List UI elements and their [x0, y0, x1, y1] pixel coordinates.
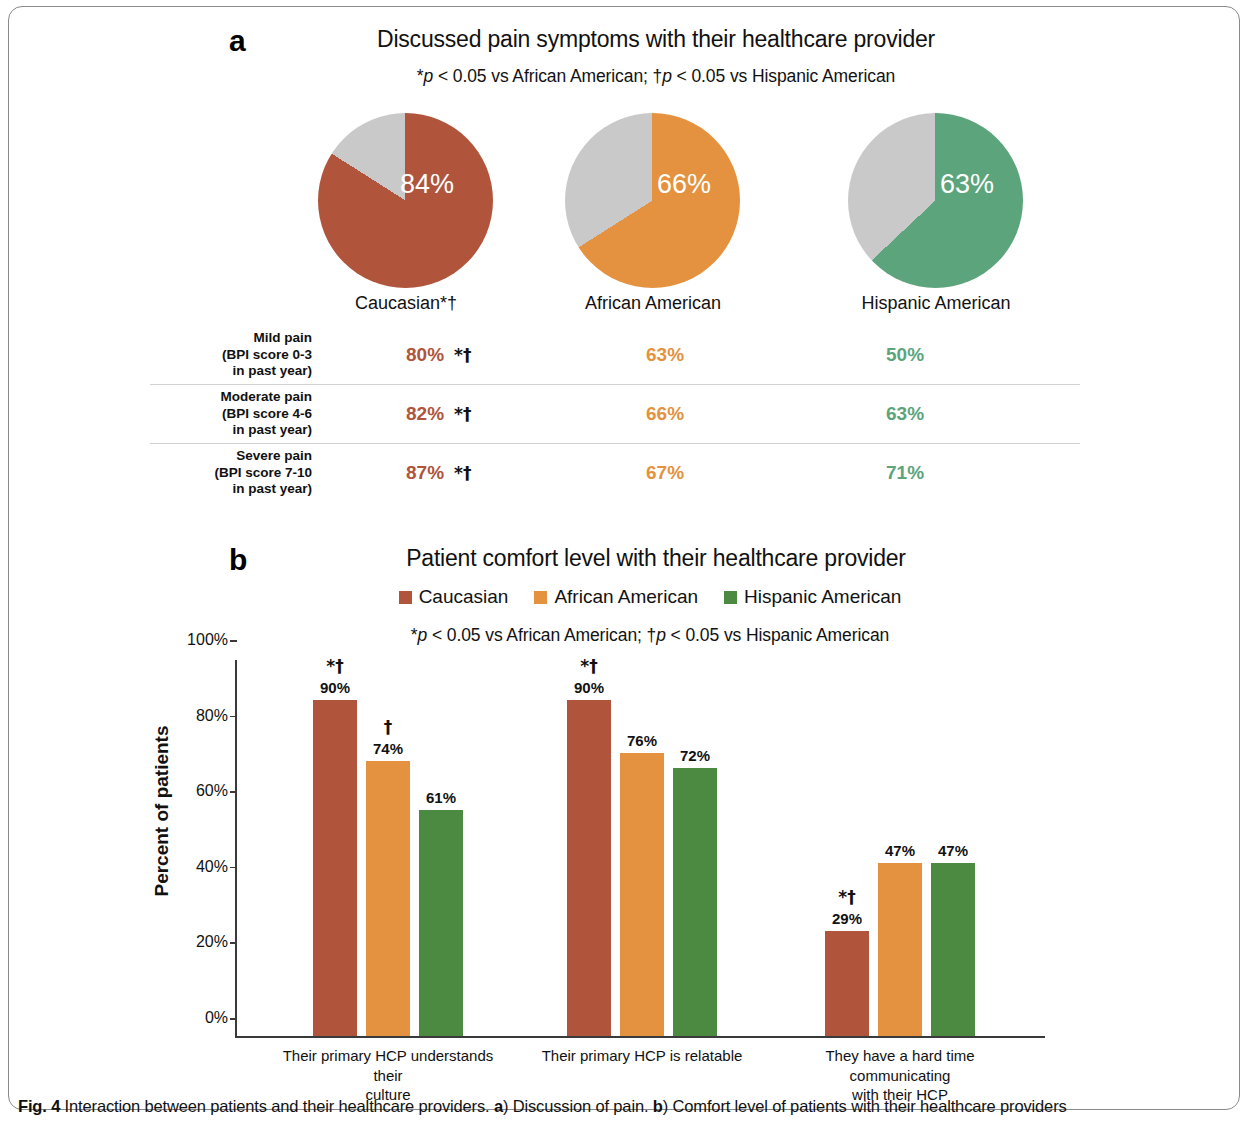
cell-significance: *†	[454, 463, 471, 483]
pie-value-label: 84%	[400, 169, 454, 200]
row-label-line2: (BPI score 7-10	[150, 465, 312, 481]
figure-4: a Discussed pain symptoms with their hea…	[0, 0, 1252, 1132]
bar-african-american: 47%	[878, 863, 922, 1036]
y-axis-tick: 20%	[196, 933, 237, 951]
cell-hispanic-american: 71%	[824, 462, 1064, 484]
x-axis-label: They have a hard time communicatingwith …	[781, 1046, 1019, 1105]
row-label-line3: in past year)	[150, 422, 312, 438]
row-label: Severe pain (BPI score 7-10 in past year…	[150, 448, 320, 497]
a-note-p2: p	[662, 66, 672, 86]
table-row: Mild pain (BPI score 0-3 in past year) 8…	[150, 326, 1080, 384]
bar-caucasian: 90%*†	[567, 700, 611, 1036]
bar-group: 29%*†47%47%They have a hard time communi…	[777, 660, 1047, 1036]
legend-swatch-icon	[534, 591, 547, 604]
row-label-line1: Severe pain	[150, 448, 312, 464]
pie-caption: African American	[533, 293, 773, 314]
x-axis-label: Their primary HCP is relatable	[523, 1046, 761, 1066]
legend-label: Caucasian	[419, 586, 509, 608]
legend-label: Hispanic American	[744, 586, 901, 608]
panel-b-title: Patient comfort level with their healthc…	[276, 545, 1036, 572]
caption-b-label: b	[653, 1097, 663, 1115]
row-label-line2: (BPI score 0-3	[150, 347, 312, 363]
legend-item-african-american: African American	[534, 586, 698, 608]
legend-item-caucasian: Caucasian	[399, 586, 509, 608]
cell-african-american: 67%	[584, 462, 824, 484]
pie-slice-group: 66%	[565, 113, 740, 288]
pie-value-label: 63%	[940, 169, 994, 200]
pie-caption: Hispanic American	[816, 293, 1056, 314]
cell-caucasian: 80%*†	[320, 344, 584, 366]
y-axis-tick: 0%	[205, 1009, 237, 1027]
row-label-line1: Moderate pain	[150, 389, 312, 405]
b-note-p1: p	[418, 625, 428, 645]
pie-value-label: 66%	[657, 169, 711, 200]
panel-a-title: Discussed pain symptoms with their healt…	[276, 26, 1036, 53]
bar-significance-marker: *†	[326, 656, 343, 676]
pie-slice-group: 84%	[318, 113, 493, 288]
x-axis-label: Their primary HCP understands theircultu…	[269, 1046, 507, 1105]
pain-severity-table: Mild pain (BPI score 0-3 in past year) 8…	[150, 326, 1080, 502]
legend-swatch-icon	[399, 591, 412, 604]
bar-value-label: 29%	[832, 910, 862, 927]
legend-label: African American	[554, 586, 698, 608]
panel-b-letter: b	[229, 543, 247, 577]
cell-caucasian: 87%*†	[320, 462, 584, 484]
bar-hispanic-american: 47%	[931, 863, 975, 1036]
x-axis-label-line: Their primary HCP understands their	[269, 1046, 507, 1085]
bar-hispanic-american: 72%	[673, 768, 717, 1036]
pie-chart-hispanic-american: 63% Hispanic American	[848, 113, 1023, 288]
cell-hispanic-american: 63%	[824, 403, 1064, 425]
cell-significance: *†	[454, 404, 471, 424]
cell-african-american: 66%	[584, 403, 824, 425]
a-note-suffix: < 0.05 vs Hispanic American	[672, 66, 895, 86]
pie-caption: Caucasian*†	[286, 293, 526, 314]
a-note-mid: < 0.05 vs African American; †	[433, 66, 662, 86]
bar-value-label: 90%	[574, 679, 604, 696]
cell-caucasian: 82%*†	[320, 403, 584, 425]
bar-african-american: 76%	[620, 753, 664, 1036]
pie-chart-caucasian: 84% Caucasian*†	[318, 113, 493, 288]
row-label-line3: in past year)	[150, 481, 312, 497]
row-label-line3: in past year)	[150, 363, 312, 379]
cell-value: 80%	[406, 344, 444, 365]
b-note-star: *	[411, 625, 418, 645]
cell-value: 87%	[406, 462, 444, 483]
bar-value-label: 47%	[885, 842, 915, 859]
bar-african-american: 74%†	[366, 761, 410, 1036]
caption-a-label: a	[494, 1097, 503, 1115]
y-axis-title: Percent of patients	[151, 701, 173, 921]
y-axis-tick: 60%	[196, 782, 237, 800]
b-note-p2: p	[656, 625, 666, 645]
cell-hispanic-american: 50%	[824, 344, 1064, 366]
b-note-suffix: < 0.05 vs Hispanic American	[666, 625, 889, 645]
row-label-line1: Mild pain	[150, 330, 312, 346]
bar-significance-marker: *†	[838, 887, 855, 907]
y-axis-tick: 100%	[187, 631, 237, 649]
cell-value: 82%	[406, 403, 444, 424]
bar-caucasian: 90%*†	[313, 700, 357, 1036]
b-note-mid: < 0.05 vs African American; †	[427, 625, 656, 645]
row-label: Moderate pain (BPI score 4-6 in past yea…	[150, 389, 320, 438]
bar-chart: Percent of patients 0%20%40%60%80%100%90…	[130, 650, 1090, 1050]
caption-text-2: ) Discussion of pain.	[503, 1097, 653, 1115]
cell-significance: *†	[454, 345, 471, 365]
bar-value-label: 74%	[373, 740, 403, 757]
row-label: Mild pain (BPI score 0-3 in past year)	[150, 330, 320, 379]
pie-chart-african-american: 66% African American	[565, 113, 740, 288]
legend-item-hispanic-american: Hispanic American	[724, 586, 901, 608]
bar-value-label: 76%	[627, 732, 657, 749]
bar-value-label: 61%	[426, 789, 456, 806]
bar-group: 90%*†76%72%Their primary HCP is relatabl…	[507, 660, 777, 1036]
bar-significance-marker: †	[384, 717, 393, 737]
table-row: Severe pain (BPI score 7-10 in past year…	[150, 443, 1080, 502]
row-label-line2: (BPI score 4-6	[150, 406, 312, 422]
bar-significance-marker: *†	[580, 656, 597, 676]
bar-group: 90%*†74%†61%Their primary HCP understand…	[237, 660, 507, 1036]
y-axis-tick: 80%	[196, 707, 237, 725]
bar-value-label: 72%	[680, 747, 710, 764]
panel-b-significance-note: *p < 0.05 vs African American; †p < 0.05…	[250, 625, 1050, 646]
caption-text-3: ) Comfort level of patients with their h…	[663, 1097, 1067, 1115]
a-note-star: *	[417, 66, 424, 86]
x-axis-label-line: Their primary HCP is relatable	[523, 1046, 761, 1066]
bar-caucasian: 29%*†	[825, 931, 869, 1036]
